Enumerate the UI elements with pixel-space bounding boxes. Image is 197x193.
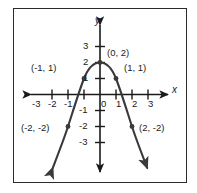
x-tick-label-3: 3	[148, 99, 153, 109]
point-label-0-2: (0, 2)	[107, 48, 129, 58]
x-tick-label-neg1: -1	[64, 99, 72, 109]
point-label-neg1-1: (-1, 1)	[31, 63, 56, 73]
y-tick-label-neg1: -1	[79, 105, 87, 115]
y-tick-label-2: 2	[83, 57, 88, 67]
x-tick-label-neg3: -3	[32, 99, 40, 109]
x-tick-label-1: 1	[116, 99, 121, 109]
y-tick-label-neg2: -2	[79, 121, 87, 131]
y-axis-label: y	[95, 16, 100, 26]
x-tick-label-neg2: -2	[48, 99, 56, 109]
data-point-1-1	[114, 76, 119, 81]
data-point-2-neg2	[130, 124, 135, 129]
figure-container: -3 -2 -1 0 1 2 3 3 2 1 -1 -2 -3 x y (-1,…	[0, 0, 197, 193]
point-label-neg2-neg2: (-2, -2)	[21, 123, 50, 133]
y-tick-label-1: 1	[83, 73, 88, 83]
y-tick-label-3: 3	[83, 41, 88, 51]
data-point-neg2-neg2	[66, 124, 71, 129]
point-label-2-neg2: (2, -2)	[139, 123, 164, 133]
x-tick-label-2: 2	[132, 99, 137, 109]
x-axis-label: x	[172, 85, 177, 95]
x-tick-label-0: 0	[101, 99, 106, 109]
point-label-1-1: (1, 1)	[124, 63, 146, 73]
y-tick-label-neg3: -3	[79, 137, 87, 147]
data-point-0-2	[98, 60, 103, 65]
coordinate-plane-graph	[0, 0, 197, 193]
